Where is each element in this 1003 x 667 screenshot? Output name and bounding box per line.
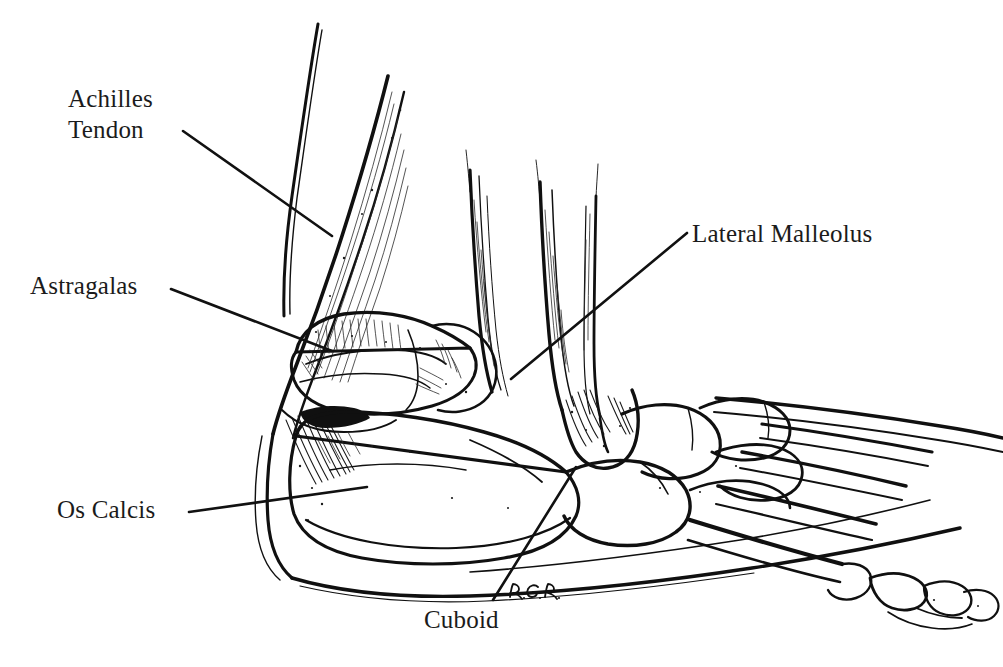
label-lateral-malleolus: Lateral Malleolus [692,219,872,250]
leader-lateral-malleolus [511,233,687,379]
achilles-tendon-band [273,76,408,438]
os-calcis-bone [290,412,579,564]
label-achilles-tendon: Achilles Tendon [68,84,153,145]
lateral-malleolus-bone [562,390,638,468]
label-cuboid: Cuboid [424,605,499,636]
leader-astragalas [171,289,332,351]
leader-achilles-tendon [183,131,332,236]
anatomical-figure: Achilles Tendon Astragalas Lateral Malle… [0,0,1003,667]
label-astragalas: Astragalas [30,271,138,302]
leader-os-calcis [189,487,367,512]
sole-contour [292,500,960,602]
label-os-calcis: Os Calcis [57,495,155,526]
phalanges [870,574,999,629]
leader-lines [171,131,687,600]
